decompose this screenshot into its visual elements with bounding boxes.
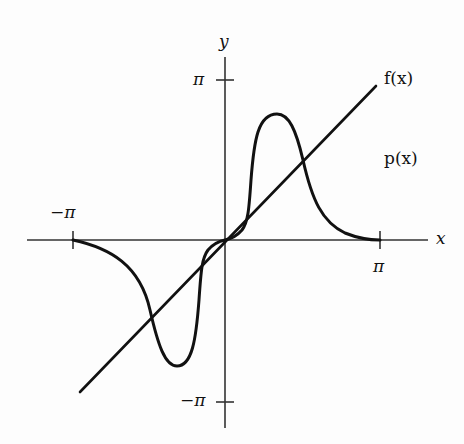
- chart-figure: y x π −π π −π f(x) p(x): [0, 0, 464, 444]
- y-tick-label-neg-pi: −π: [180, 392, 205, 409]
- y-axis-label: y: [219, 33, 229, 50]
- x-axis-label: x: [436, 230, 446, 247]
- f-series-label: f(x): [384, 70, 413, 87]
- y-tick-label-pi: π: [193, 71, 204, 88]
- p-series-label: p(x): [384, 150, 418, 167]
- plot-area: [0, 0, 464, 444]
- x-tick-label-neg-pi: −π: [50, 204, 75, 221]
- x-tick-label-pi: π: [373, 258, 384, 275]
